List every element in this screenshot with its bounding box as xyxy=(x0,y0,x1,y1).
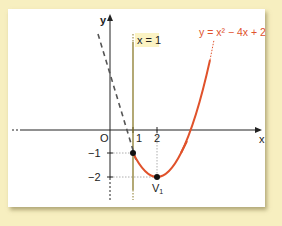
y-tick-minus1: −1 xyxy=(88,147,101,159)
x-tick-2: 2 xyxy=(154,132,160,144)
parabola-graph: x = 1 y = x² − 4x + 2 y x O 1 2 −1 −2 V1 xyxy=(0,0,282,226)
y-tick-minus2: −2 xyxy=(88,171,101,183)
origin-label: O xyxy=(100,132,109,144)
vline-label: x = 1 xyxy=(137,34,161,46)
vertex-label: V1 xyxy=(152,182,163,195)
y-axis-label: y xyxy=(100,14,107,26)
point-1-minus1 xyxy=(130,150,136,156)
function-label: y = x² − 4x + 2 xyxy=(199,26,266,38)
x-tick-1: 1 xyxy=(136,132,142,144)
parabola-curve xyxy=(133,141,187,177)
x-axis-label: x xyxy=(259,133,265,145)
vertex-point xyxy=(154,174,160,180)
y-axis-arrow-icon xyxy=(107,14,113,21)
